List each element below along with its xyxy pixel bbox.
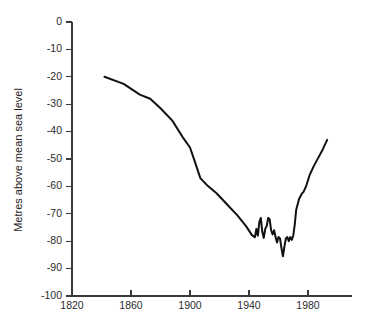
y-axis-ticks [66, 22, 72, 296]
y-tick-label: -10 [47, 42, 62, 54]
y-tick-label: -90 [47, 261, 62, 273]
x-axis-ticks [72, 290, 308, 296]
y-tick-label: -20 [47, 70, 62, 82]
y-tick-label: -70 [47, 207, 62, 219]
y-tick-label: -50 [47, 152, 62, 164]
y-axis-tick-labels: 0 -10 -20 -30 -40 -50 -60 -70 -80 -90 -1… [41, 15, 62, 301]
line-chart: Metres above mean sea level 0 -10 -20 -3… [0, 0, 369, 334]
x-tick-label: 1860 [119, 299, 143, 311]
y-tick-label: -80 [47, 234, 62, 246]
x-tick-label: 1900 [178, 299, 202, 311]
x-tick-label: 1820 [60, 299, 84, 311]
x-tick-label: 1940 [237, 299, 261, 311]
chart-container: Metres above mean sea level 0 -10 -20 -3… [0, 0, 369, 334]
y-tick-label: -60 [47, 179, 62, 191]
x-tick-label: 1980 [296, 299, 320, 311]
x-axis-tick-labels: 1820 1860 1900 1940 1980 [60, 299, 320, 311]
y-tick-label: 0 [56, 15, 62, 27]
y-tick-label: -100 [41, 289, 62, 301]
y-axis-title: Metres above mean sea level [12, 88, 24, 232]
data-line-lake-level [104, 77, 327, 256]
y-tick-label: -30 [47, 97, 62, 109]
y-tick-label: -40 [47, 124, 62, 136]
